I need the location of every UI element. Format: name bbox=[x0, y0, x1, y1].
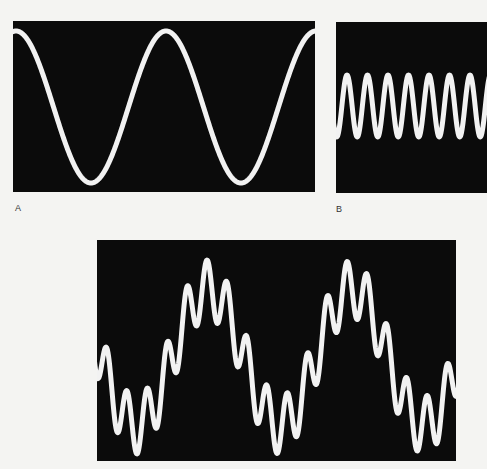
sine-wave-a bbox=[13, 21, 315, 192]
composite-wave-c bbox=[97, 240, 456, 461]
sine-wave-b bbox=[336, 22, 487, 193]
panel-b-label: B bbox=[336, 204, 342, 214]
panel-c-screen bbox=[97, 240, 456, 461]
panel-a-screen bbox=[13, 21, 315, 192]
panel-a-label: A bbox=[15, 203, 21, 213]
panel-b-screen bbox=[336, 22, 487, 193]
